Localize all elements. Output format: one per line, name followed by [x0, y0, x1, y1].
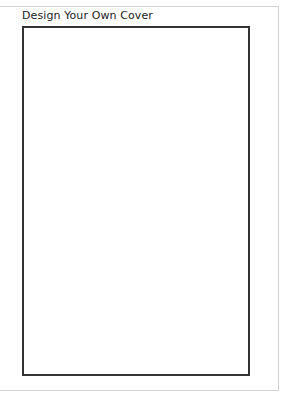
panel-title: Design Your Own Cover	[22, 9, 153, 22]
cover-design-canvas[interactable]	[22, 26, 250, 376]
